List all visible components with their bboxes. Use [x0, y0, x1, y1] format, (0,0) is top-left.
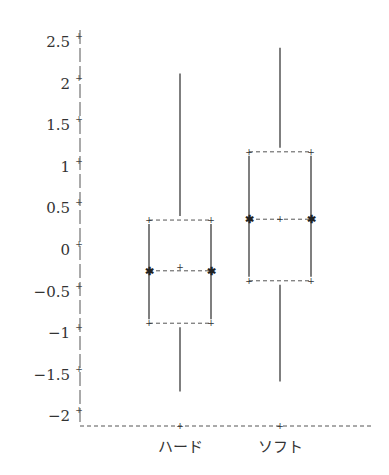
corner-mark: +	[245, 147, 253, 157]
x-category-label: ソフト	[258, 438, 303, 456]
box-plot-chart: +2.5+2+1.5+1+0.5+0+−0.5+−1+−1.5+−2 +ハード+…	[0, 0, 389, 475]
corner-mark: +	[307, 147, 315, 157]
y-tick-label: 2.5	[46, 33, 70, 51]
x-category-label: ハード	[158, 438, 203, 456]
corner-mark: +	[145, 318, 153, 328]
y-tick-label: 1	[60, 158, 70, 176]
y-tick-mark: +	[75, 364, 83, 374]
median-marker: ✱	[307, 213, 316, 226]
median-marker: ✱	[145, 265, 154, 278]
median-marker: ✱	[245, 213, 254, 226]
x-axis: +ハード+ソフト	[80, 421, 372, 456]
y-tick-label: −0.5	[34, 283, 70, 301]
x-tick-mark: +	[176, 421, 184, 431]
y-tick-label: 0.5	[46, 199, 70, 217]
y-tick-label: −1.5	[34, 366, 70, 384]
y-tick-mark: +	[75, 156, 83, 166]
y-tick-mark: +	[75, 197, 83, 207]
y-tick-mark: +	[75, 405, 83, 415]
mean-marker: +	[176, 262, 184, 272]
y-tick-label: 2	[60, 75, 70, 93]
corner-mark: +	[145, 215, 153, 225]
mean-marker: +	[276, 214, 284, 224]
y-tick-mark: +	[75, 114, 83, 124]
box-soft: ++++✱✱+	[245, 48, 316, 382]
x-tick-mark: +	[276, 421, 284, 431]
y-axis: +2.5+2+1.5+1+0.5+0+−0.5+−1+−1.5+−2	[34, 30, 83, 425]
y-tick-mark: +	[75, 322, 83, 332]
median-marker: ✱	[207, 265, 216, 278]
y-tick-mark: +	[75, 239, 83, 249]
corner-mark: +	[245, 276, 253, 286]
corner-mark: +	[207, 215, 215, 225]
y-tick-label: 0	[60, 241, 70, 259]
y-tick-mark: +	[75, 73, 83, 83]
y-tick-mark: +	[75, 281, 83, 291]
box-hard: ++++✱✱+	[145, 74, 216, 392]
y-tick-label: −1	[48, 324, 70, 342]
corner-mark: +	[307, 276, 315, 286]
box-series: ++++✱✱+++++✱✱+	[145, 48, 316, 392]
y-tick-label: 1.5	[46, 116, 70, 134]
y-tick-label: −2	[48, 407, 70, 425]
y-tick-mark: +	[75, 31, 83, 41]
corner-mark: +	[207, 318, 215, 328]
